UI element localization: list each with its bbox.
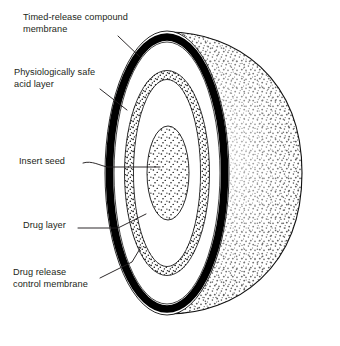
leader-timed-release bbox=[118, 36, 140, 57]
drug-delivery-sphere-diagram bbox=[0, 0, 340, 346]
label-physiologically-safe-acid-layer: Physiologically safe acid layer bbox=[14, 66, 95, 91]
insert-seed-core bbox=[147, 126, 189, 220]
label-drug-release-control-membrane: Drug release control membrane bbox=[13, 266, 88, 291]
label-drug-layer: Drug layer bbox=[23, 219, 66, 231]
label-insert-seed: Insert seed bbox=[19, 155, 65, 167]
label-timed-release-compound-membrane: Timed-release compound membrane bbox=[23, 11, 128, 36]
